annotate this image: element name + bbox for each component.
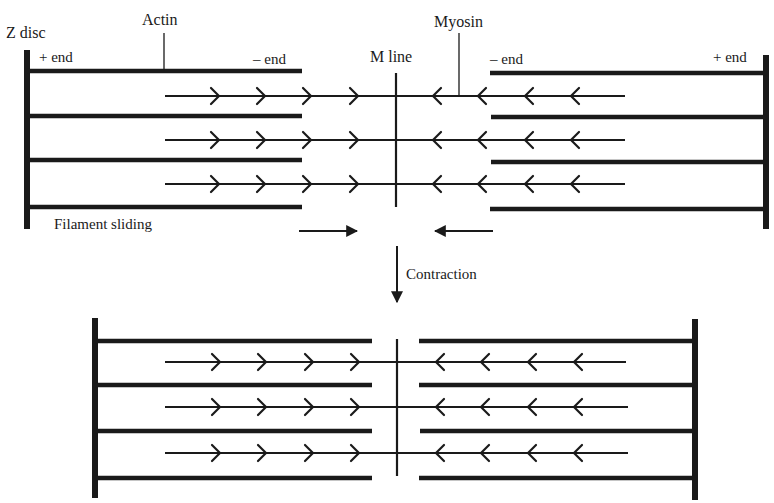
z-disc-label: Z disc [6,25,46,41]
m-line-label: M line [370,49,412,65]
minus-end-right-label: – end [490,52,523,67]
plus-end-right-label: + end [713,50,747,65]
plus-end-left-label: + end [39,50,73,65]
actin-filaments-right [490,73,766,209]
actin-label: Actin [142,12,178,28]
contraction-label: Contraction [406,267,477,282]
sarcomere-diagram [0,0,774,503]
contracted-sarcomere [95,318,695,500]
filament-sliding-label: Filament sliding [54,217,152,232]
minus-end-left-label: – end [253,52,286,67]
myosin-label: Myosin [434,14,483,30]
